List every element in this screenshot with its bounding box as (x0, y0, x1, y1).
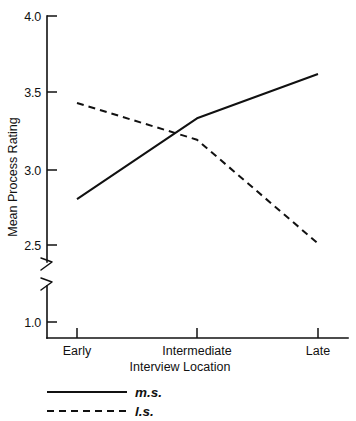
x-axis-title: Interview Location (130, 360, 231, 374)
chart-legend: m.s. l.s. (47, 385, 162, 419)
series-line-ms (77, 74, 318, 199)
y-tick-label-3-0: 3.0 (24, 164, 41, 178)
y-axis-title: Mean Process Rating (6, 117, 20, 237)
y-tick-label-1-0: 1.0 (24, 316, 41, 330)
y-tick-label-4-0: 4.0 (24, 10, 41, 24)
x-tick-label-early: Early (63, 344, 92, 358)
legend-label-ms: m.s. (135, 385, 162, 400)
y-axis-break-mark-upper (41, 258, 52, 270)
series-line-ls (77, 103, 318, 244)
chart-figure: 4.0 3.5 3.0 2.5 1.0 Mean Process Rating … (0, 0, 356, 421)
y-tick-label-2-5: 2.5 (24, 239, 41, 253)
y-tick-label-3-5: 3.5 (24, 86, 41, 100)
x-tick-label-intermediate: Intermediate (162, 344, 232, 358)
x-tick-label-late: Late (306, 344, 330, 358)
legend-label-ls: l.s. (135, 404, 154, 419)
line-chart: 4.0 3.5 3.0 2.5 1.0 Mean Process Rating … (0, 0, 356, 421)
